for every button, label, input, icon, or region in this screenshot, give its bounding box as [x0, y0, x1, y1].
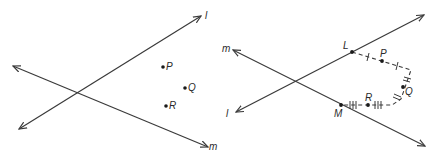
label-l-left: l [205, 10, 208, 21]
label-R-right: R [365, 92, 372, 103]
label-m-left: m [209, 141, 217, 152]
label-L-right: L [343, 40, 349, 51]
point-R-left [164, 104, 168, 108]
double-tick-lower-Q [393, 94, 401, 100]
label-Q-left: Q [188, 82, 196, 93]
point-P-right [380, 59, 384, 63]
point-Q-left [183, 86, 187, 90]
point-L-right [350, 50, 354, 54]
left-panel: l m P Q R [13, 10, 217, 152]
point-M-right [339, 103, 343, 107]
label-P-left: P [166, 61, 173, 72]
line-m-left [13, 66, 208, 147]
right-panel: m l L P Q [222, 15, 425, 146]
double-tick-upper-Q [403, 77, 411, 82]
label-m-right: m [222, 43, 230, 54]
label-Q-right: Q [405, 86, 413, 97]
label-M-right: M [334, 108, 343, 119]
point-P-left [161, 65, 165, 69]
point-R-right [366, 103, 370, 107]
label-l-right: l [226, 108, 229, 119]
line-l-right [236, 15, 424, 112]
label-R-left: R [169, 100, 176, 111]
line-l-left [19, 16, 201, 129]
label-P-right: P [380, 48, 387, 59]
tick-P-corner [396, 62, 398, 70]
geometry-figure: l m P Q R m l [0, 0, 438, 158]
